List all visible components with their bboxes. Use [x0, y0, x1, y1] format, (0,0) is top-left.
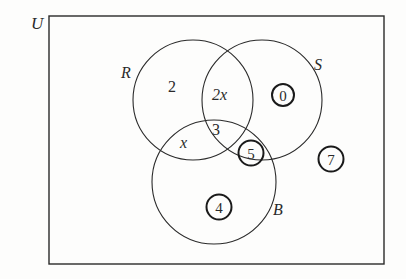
circled-4-value: 4	[215, 200, 223, 216]
region-r-s-b-value: 3	[212, 121, 220, 138]
set-b-circle	[152, 120, 276, 244]
universe-rectangle	[49, 16, 384, 264]
region-r-and-s-value-num: 2x	[212, 86, 227, 103]
circled-7-value: 7	[327, 152, 335, 168]
universe-label: U	[31, 14, 45, 33]
set-s-label: S	[314, 56, 322, 73]
circled-5-value: 5	[247, 146, 255, 162]
set-b-label: B	[273, 201, 283, 218]
venn-svg: U R S B 2 2x 3 x 0 5 7 4	[0, 0, 406, 279]
region-r-and-s-value: 2x	[212, 86, 227, 103]
circled-0-value: 0	[279, 88, 287, 104]
region-r-only-value: 2	[168, 78, 176, 95]
venn-diagram: U R S B 2 2x 3 x 0 5 7 4	[0, 0, 406, 279]
region-r-and-b-value: x	[179, 134, 187, 151]
set-r-circle	[133, 40, 253, 160]
set-r-label: R	[120, 64, 131, 81]
